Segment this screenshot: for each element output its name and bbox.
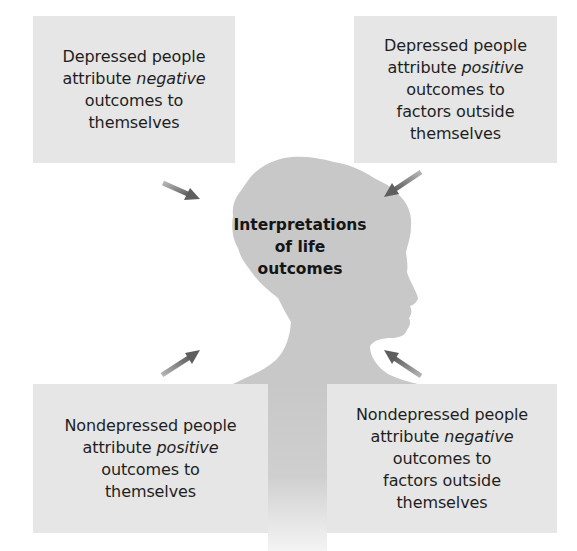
box-line: themselves xyxy=(64,481,236,503)
arrow-down-left-icon xyxy=(384,172,421,197)
box-line: outcomes to xyxy=(356,448,528,470)
box-line: outcomes to xyxy=(62,90,205,112)
center-label: Interpretations of life outcomes xyxy=(220,214,380,280)
box-line: Depressed people xyxy=(384,35,527,57)
box-emphasis: positive xyxy=(461,58,523,77)
box-text: attribute xyxy=(370,427,444,446)
box-line: Nondepressed people xyxy=(64,415,236,437)
box-line: attribute negative xyxy=(62,68,205,90)
box-nondepressed-positive-self: Nondepressed people attribute positive o… xyxy=(33,384,268,533)
box-line: attribute positive xyxy=(384,57,527,79)
box-line: Nondepressed people xyxy=(356,404,528,426)
box-line: themselves xyxy=(384,123,527,145)
arrow-up-right-icon xyxy=(162,350,200,375)
box-emphasis: negative xyxy=(444,427,513,446)
box-text: attribute xyxy=(83,438,157,457)
arrow-down-right-icon xyxy=(163,183,200,200)
box-line: themselves xyxy=(62,112,205,134)
box-depressed-positive-external: Depressed people attribute positive outc… xyxy=(354,16,557,163)
box-line: outcomes to xyxy=(384,79,527,101)
box-emphasis: negative xyxy=(136,69,205,88)
box-line: factors outside xyxy=(356,470,528,492)
box-line: attribute negative xyxy=(356,426,528,448)
box-line: Depressed people xyxy=(62,46,205,68)
box-line: attribute positive xyxy=(64,437,236,459)
box-depressed-negative-self: Depressed people attribute negative outc… xyxy=(33,16,235,163)
center-label-line-1: Interpretations xyxy=(220,214,380,236)
box-line: factors outside xyxy=(384,101,527,123)
center-label-line-3: outcomes xyxy=(220,258,380,280)
arrow-up-left-icon xyxy=(384,350,421,376)
box-line: themselves xyxy=(356,492,528,514)
box-line: outcomes to xyxy=(64,459,236,481)
box-text: attribute xyxy=(388,58,462,77)
box-nondepressed-negative-external: Nondepressed people attribute negative o… xyxy=(327,384,557,533)
diagram-canvas: Interpretations of life outcomes Depress… xyxy=(0,0,577,551)
center-label-line-2: of life xyxy=(220,236,380,258)
box-text: attribute xyxy=(62,69,136,88)
box-emphasis: positive xyxy=(156,438,218,457)
